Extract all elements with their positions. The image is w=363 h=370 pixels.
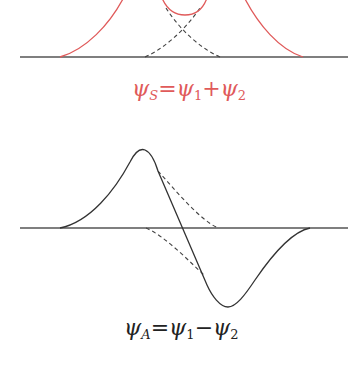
psi-symbol: ψ bbox=[124, 315, 141, 340]
minus-sign: − bbox=[195, 315, 213, 340]
antisymmetric-equation: ψA=ψ1−ψ2 bbox=[124, 317, 239, 341]
psi2-symbol: ψ bbox=[213, 315, 230, 340]
symmetric-equation: ψS=ψ1+ψ2 bbox=[132, 78, 246, 102]
psi2-dashed-curve-top bbox=[166, 8, 220, 57]
psi1-dashed-curve-top bbox=[145, 8, 200, 57]
psi-symbol: ψ bbox=[132, 76, 149, 101]
subscript-2: 2 bbox=[238, 88, 246, 103]
subscript-a: A bbox=[141, 327, 150, 342]
subscript-2: 2 bbox=[230, 327, 238, 342]
psi1-symbol: ψ bbox=[177, 76, 194, 101]
psi2-symbol: ψ bbox=[221, 76, 238, 101]
plus-sign: + bbox=[202, 76, 220, 101]
psi2-dashed-curve-bottom bbox=[146, 228, 205, 276]
subscript-1: 1 bbox=[194, 88, 202, 103]
subscript-1: 1 bbox=[186, 327, 194, 342]
psi1-symbol: ψ bbox=[169, 315, 186, 340]
equals-sign: = bbox=[158, 76, 176, 101]
psi1-dashed-curve-bottom bbox=[158, 171, 218, 228]
equals-sign: = bbox=[151, 315, 169, 340]
symmetric-curve bbox=[60, 0, 303, 57]
subscript-s: S bbox=[149, 88, 158, 103]
